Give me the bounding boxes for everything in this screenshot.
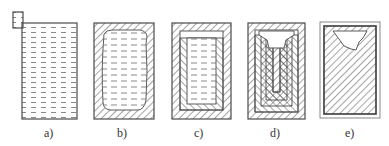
panel-b: b): [94, 23, 154, 140]
panel-label-d: d): [270, 126, 280, 140]
panel-label-b: b): [117, 126, 127, 140]
panel-a: a): [13, 12, 77, 140]
panel-e: e): [320, 22, 380, 140]
solidification-diagram: a) b) c) d) e): [0, 0, 389, 146]
panel-d: d): [248, 23, 305, 140]
panel-label-c: c): [194, 126, 203, 140]
panel-label-a: a): [44, 126, 53, 140]
panel-label-e: e): [345, 126, 354, 140]
panel-c: c): [172, 23, 231, 140]
